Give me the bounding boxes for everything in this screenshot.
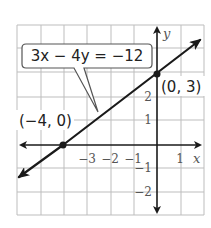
y-tick-neg2: −2 <box>134 185 152 199</box>
y-axis-label: y <box>162 26 171 41</box>
x-tick-neg3: −3 <box>78 152 96 166</box>
x-intercept-label: (−4, 0) <box>19 112 72 130</box>
y-tick-1: 1 <box>144 113 152 127</box>
equation-label: 3x − 4y = −12 <box>31 47 144 65</box>
x-intercept-point <box>60 142 67 149</box>
y-intercept-point <box>154 71 161 78</box>
y-intercept-label: (0, 3) <box>161 78 201 96</box>
y-tick-2: 2 <box>144 90 152 104</box>
x-tick-1: 1 <box>176 152 184 166</box>
x-tick-neg2: −2 <box>101 152 119 166</box>
coordinate-graph: 3x − 4y = −12 (−4, 0) (0, 3) y x −3 −2 −… <box>0 0 211 228</box>
x-axis-label: x <box>193 151 201 166</box>
y-tick-neg1: −1 <box>134 161 152 175</box>
